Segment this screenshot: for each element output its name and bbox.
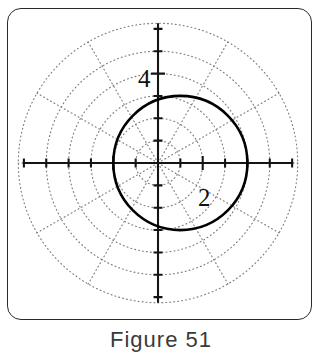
cartesian-axes [23,23,293,302]
radial-tick-label-4: 4 [138,66,151,91]
polar-plot-canvas [8,9,311,319]
radial-tick-label-2: 2 [198,185,211,210]
plot-frame: 4 2 [7,8,312,320]
figure-caption: Figure 51 [0,327,322,353]
